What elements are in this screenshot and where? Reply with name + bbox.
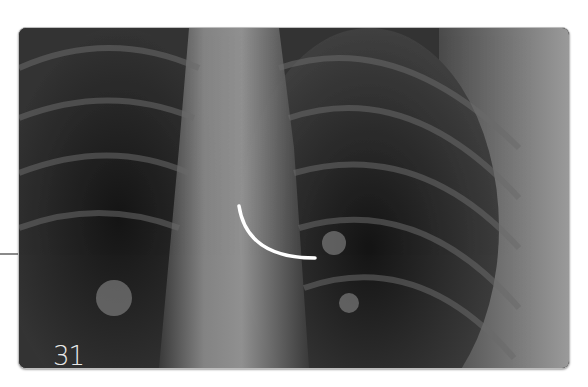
xray-image-frame: 31 <box>18 27 570 369</box>
figure-number: 31 <box>53 341 84 369</box>
leader-line <box>0 253 20 255</box>
chest-xray-image <box>19 28 569 368</box>
